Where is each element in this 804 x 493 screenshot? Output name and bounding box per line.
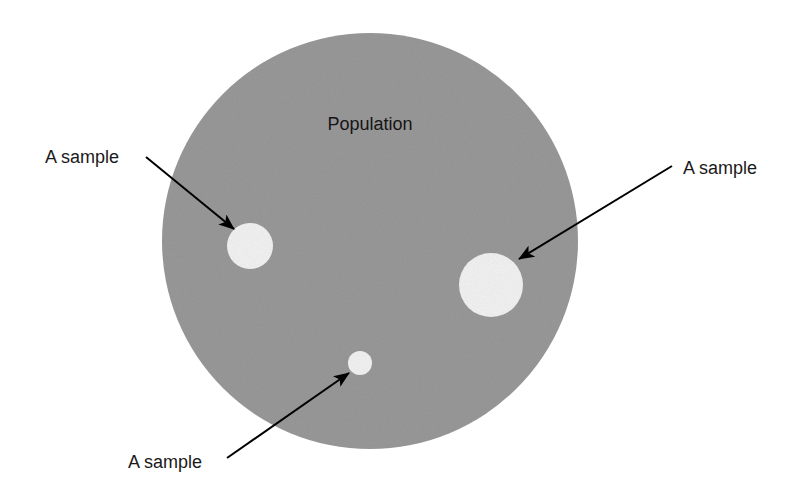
sample-circle-left xyxy=(227,223,273,269)
sample-label-left: A sample xyxy=(45,147,119,167)
sample-label-right: A sample xyxy=(683,158,757,178)
sample-circle-right xyxy=(459,253,523,317)
sample-circle-bottom xyxy=(348,351,372,375)
diagram-canvas: Population A sample A sample A sample xyxy=(0,0,804,493)
population-sample-diagram: Population A sample A sample A sample xyxy=(0,0,804,493)
population-label: Population xyxy=(327,114,412,134)
population-circle xyxy=(162,33,578,449)
sample-label-bottom: A sample xyxy=(128,452,202,472)
